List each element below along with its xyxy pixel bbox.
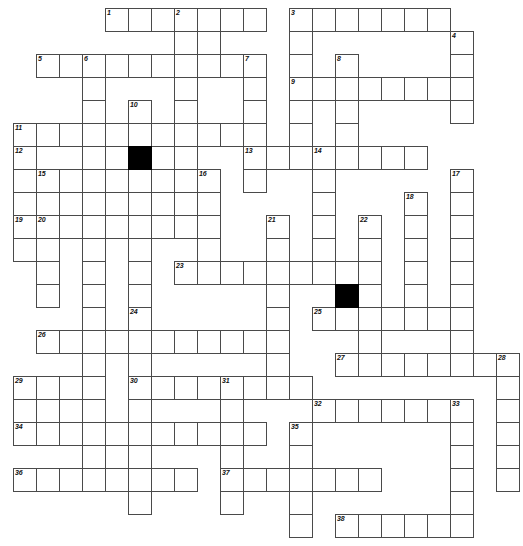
crossword-cell[interactable] [82, 169, 106, 193]
crossword-cell[interactable]: 14 [312, 146, 336, 170]
crossword-cell[interactable] [59, 54, 83, 78]
crossword-cell[interactable] [59, 169, 83, 193]
crossword-cell[interactable] [312, 261, 336, 285]
crossword-cell[interactable] [450, 422, 474, 446]
crossword-cell[interactable] [197, 31, 221, 55]
crossword-cell[interactable] [174, 468, 198, 492]
crossword-cell[interactable] [381, 399, 405, 423]
crossword-cell[interactable] [243, 77, 267, 101]
crossword-cell[interactable]: 5 [36, 54, 60, 78]
crossword-cell[interactable] [358, 8, 382, 32]
crossword-cell[interactable] [174, 169, 198, 193]
crossword-cell[interactable] [105, 54, 129, 78]
crossword-cell[interactable] [358, 399, 382, 423]
crossword-cell[interactable] [289, 445, 313, 469]
crossword-cell[interactable] [220, 261, 244, 285]
crossword-cell[interactable] [404, 353, 428, 377]
crossword-cell[interactable]: 34 [13, 422, 37, 446]
crossword-cell[interactable] [266, 307, 290, 331]
crossword-cell[interactable] [243, 169, 267, 193]
crossword-cell[interactable]: 8 [335, 54, 359, 78]
crossword-cell[interactable] [128, 353, 152, 377]
crossword-cell[interactable]: 18 [404, 192, 428, 216]
crossword-cell[interactable] [496, 445, 520, 469]
crossword-cell[interactable] [197, 8, 221, 32]
crossword-cell[interactable] [128, 445, 152, 469]
crossword-cell[interactable] [220, 123, 244, 147]
crossword-cell[interactable] [105, 169, 129, 193]
crossword-cell[interactable] [243, 468, 267, 492]
crossword-cell[interactable]: 38 [335, 514, 359, 538]
crossword-cell[interactable] [82, 77, 106, 101]
crossword-cell[interactable] [105, 330, 129, 354]
crossword-cell[interactable] [128, 399, 152, 423]
crossword-cell[interactable] [174, 376, 198, 400]
crossword-cell[interactable] [128, 169, 152, 193]
crossword-cell[interactable] [105, 123, 129, 147]
crossword-cell[interactable]: 7 [243, 54, 267, 78]
crossword-cell[interactable] [335, 100, 359, 124]
crossword-cell[interactable] [82, 123, 106, 147]
crossword-cell[interactable] [450, 330, 474, 354]
crossword-cell[interactable] [358, 284, 382, 308]
crossword-cell[interactable] [243, 123, 267, 147]
crossword-cell[interactable]: 29 [13, 376, 37, 400]
crossword-cell[interactable] [358, 330, 382, 354]
crossword-cell[interactable] [312, 8, 336, 32]
crossword-cell[interactable] [151, 123, 175, 147]
crossword-cell[interactable] [82, 399, 106, 423]
crossword-cell[interactable] [404, 238, 428, 262]
crossword-cell[interactable] [36, 399, 60, 423]
crossword-cell[interactable] [358, 238, 382, 262]
crossword-cell[interactable] [128, 491, 152, 515]
crossword-cell[interactable] [82, 468, 106, 492]
crossword-cell[interactable] [289, 376, 313, 400]
crossword-cell[interactable] [404, 77, 428, 101]
crossword-cell[interactable] [59, 330, 83, 354]
crossword-cell[interactable] [312, 192, 336, 216]
crossword-cell[interactable] [36, 284, 60, 308]
crossword-cell[interactable] [151, 169, 175, 193]
crossword-cell[interactable] [36, 261, 60, 285]
crossword-cell[interactable]: 24 [128, 307, 152, 331]
crossword-cell[interactable] [174, 192, 198, 216]
crossword-cell[interactable] [197, 422, 221, 446]
crossword-cell[interactable] [105, 468, 129, 492]
crossword-cell[interactable] [243, 261, 267, 285]
crossword-cell[interactable] [381, 307, 405, 331]
crossword-cell[interactable] [220, 445, 244, 469]
crossword-cell[interactable] [151, 8, 175, 32]
crossword-cell[interactable] [82, 192, 106, 216]
crossword-cell[interactable]: 32 [312, 399, 336, 423]
crossword-cell[interactable] [427, 307, 451, 331]
crossword-cell[interactable]: 4 [450, 31, 474, 55]
crossword-cell[interactable]: 30 [128, 376, 152, 400]
crossword-cell[interactable] [381, 514, 405, 538]
crossword-cell[interactable]: 35 [289, 422, 313, 446]
crossword-cell[interactable] [197, 215, 221, 239]
crossword-cell[interactable] [381, 146, 405, 170]
crossword-cell[interactable] [381, 353, 405, 377]
crossword-cell[interactable] [358, 353, 382, 377]
crossword-cell[interactable] [381, 77, 405, 101]
crossword-cell[interactable] [128, 284, 152, 308]
crossword-cell[interactable]: 3 [289, 8, 313, 32]
crossword-cell[interactable] [312, 238, 336, 262]
crossword-cell[interactable] [243, 8, 267, 32]
crossword-cell[interactable] [266, 261, 290, 285]
crossword-cell[interactable] [289, 514, 313, 538]
crossword-cell[interactable] [496, 422, 520, 446]
crossword-cell[interactable]: 25 [312, 307, 336, 331]
crossword-cell[interactable] [289, 100, 313, 124]
crossword-cell[interactable] [128, 330, 152, 354]
crossword-cell[interactable] [335, 8, 359, 32]
crossword-cell[interactable] [82, 353, 106, 377]
crossword-cell[interactable]: 16 [197, 169, 221, 193]
crossword-cell[interactable] [473, 353, 497, 377]
crossword-cell[interactable] [36, 238, 60, 262]
crossword-cell[interactable] [220, 54, 244, 78]
crossword-cell[interactable] [151, 468, 175, 492]
crossword-cell[interactable] [404, 146, 428, 170]
crossword-cell[interactable] [450, 54, 474, 78]
crossword-cell[interactable] [243, 330, 267, 354]
